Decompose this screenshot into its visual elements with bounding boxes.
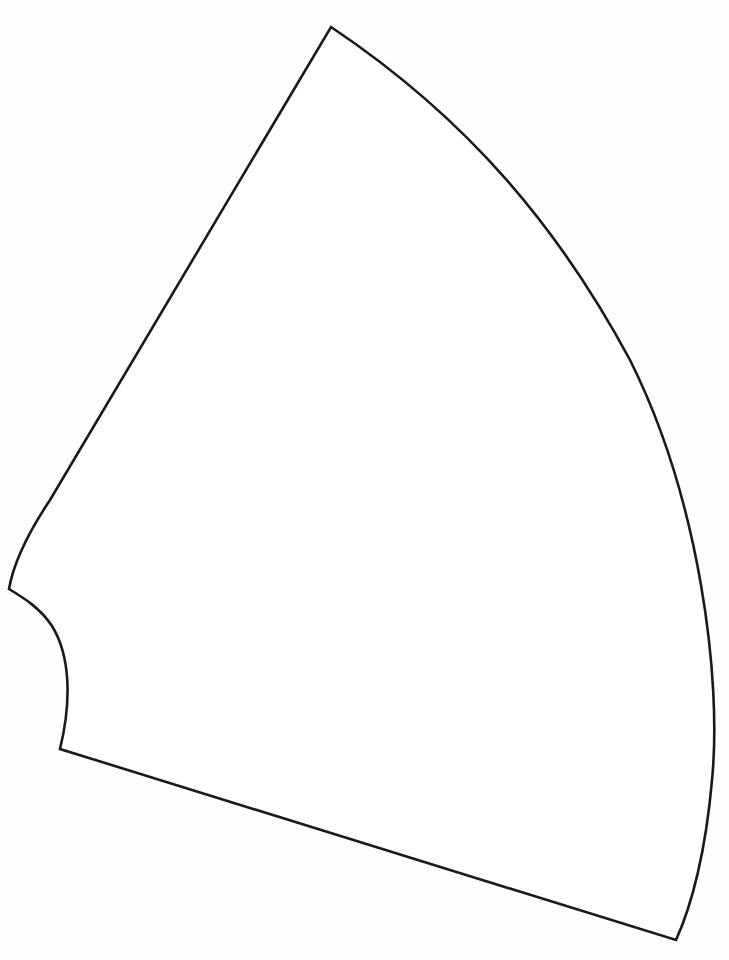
diagram-canvas	[0, 0, 729, 960]
sector-outline	[9, 27, 714, 940]
sector-template-svg	[0, 0, 729, 960]
